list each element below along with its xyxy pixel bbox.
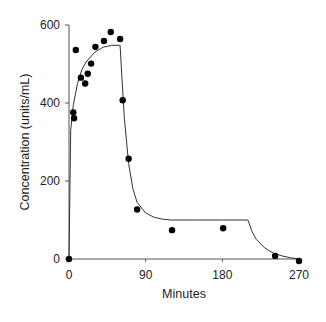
- data-point: [119, 97, 125, 103]
- x-tick-label: 180: [212, 268, 232, 282]
- data-points: [66, 29, 302, 264]
- x-ticks: 090180270: [66, 259, 310, 282]
- data-point: [82, 80, 88, 86]
- data-point: [134, 206, 140, 212]
- fit-curve: [69, 45, 299, 259]
- data-point: [70, 109, 76, 115]
- x-tick-label: 0: [66, 268, 73, 282]
- y-ticks: 0200400600: [40, 18, 69, 266]
- data-point: [169, 227, 175, 233]
- data-point: [125, 156, 131, 162]
- y-tick-label: 0: [53, 252, 60, 266]
- chart: 0200400600 090180270 Minutes Concentrati…: [0, 0, 326, 322]
- x-axis-label: Minutes: [162, 287, 206, 301]
- y-tick-label: 600: [40, 18, 60, 32]
- y-tick-label: 400: [40, 96, 60, 110]
- data-point: [296, 258, 302, 264]
- axes: 0200400600 090180270: [40, 18, 309, 282]
- data-point: [101, 38, 107, 44]
- data-point: [78, 74, 84, 80]
- data-point: [71, 115, 77, 121]
- data-point: [88, 60, 94, 66]
- data-point: [66, 256, 72, 262]
- data-point: [108, 29, 114, 35]
- data-point: [73, 47, 79, 53]
- y-axis-label: Concentration (units/mL): [18, 74, 32, 211]
- x-tick-label: 90: [139, 268, 153, 282]
- x-tick-label: 270: [289, 268, 309, 282]
- data-point: [92, 44, 98, 50]
- data-point: [117, 36, 123, 42]
- y-tick-label: 200: [40, 174, 60, 188]
- data-point: [272, 253, 278, 259]
- data-point: [220, 225, 226, 231]
- data-point: [85, 71, 91, 77]
